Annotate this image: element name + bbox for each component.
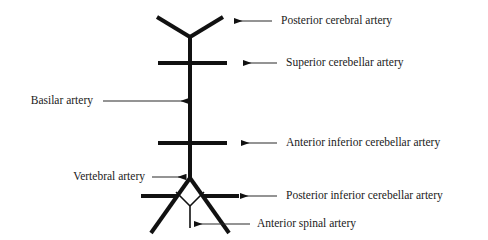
label-posterior-inferior-cerebellar-artery: Posterior inferior cerebellar artery: [286, 190, 443, 202]
diagram-canvas: Posterior cerebral artery Superior cereb…: [0, 0, 488, 240]
artery-diagram: [0, 0, 488, 240]
label-superior-cerebellar-artery: Superior cerebellar artery: [286, 57, 404, 69]
posterior-cerebral-left-branch: [157, 17, 190, 37]
vertebral-artery-right-leg: [190, 178, 229, 233]
anterior-spinal-left-limb: [176, 192, 190, 206]
label-anterior-inferior-cerebellar-artery: Anterior inferior cerebellar artery: [286, 137, 440, 149]
label-anterior-spinal-artery: Anterior spinal artery: [257, 218, 356, 230]
label-vertebral-artery: Vertebral artery: [73, 171, 145, 183]
anterior-spinal-right-limb: [190, 192, 204, 206]
posterior-cerebral-right-branch: [190, 17, 223, 37]
vertebral-artery-left-leg: [151, 178, 190, 233]
label-basilar-artery: Basilar artery: [31, 95, 93, 107]
label-posterior-cerebral-artery: Posterior cerebral artery: [281, 15, 392, 27]
